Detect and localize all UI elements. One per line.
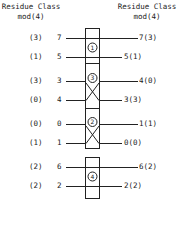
left-residue-label: (0): [29, 120, 43, 128]
right-output-label: 2(2): [124, 182, 142, 190]
left-residue-label: (3): [29, 34, 43, 42]
left-value-label: 3: [57, 77, 62, 85]
stage-2-number: 2: [91, 118, 95, 125]
stage-1-number: 1: [91, 44, 95, 51]
stage-4-switch: [66, 158, 138, 199]
left-residue-label: (0): [29, 96, 43, 104]
stage-3-number: 3: [91, 74, 95, 81]
left-residue-label: (2): [29, 182, 43, 190]
right-output-label: 1(1): [139, 120, 157, 128]
right-output-label: 7(3): [139, 34, 157, 42]
left-residue-label: (2): [29, 163, 43, 171]
left-residue-label: (1): [29, 53, 43, 61]
left-residue-label: (3): [29, 77, 43, 85]
stage-4-number: 4: [91, 173, 95, 180]
left-value-label: 0: [57, 120, 62, 128]
right-output-label: 4(0): [139, 77, 157, 85]
left-value-label: 5: [57, 53, 62, 61]
stage-1-switch: [66, 29, 138, 70]
right-output-label: 3(3): [124, 96, 142, 104]
left-value-label: 7: [57, 34, 62, 42]
left-residue-label: (1): [29, 139, 43, 147]
right-output-label: 0(0): [124, 139, 142, 147]
right-output-label: 6(2): [139, 163, 157, 171]
left-value-label: 2: [57, 182, 62, 190]
left-value-label: 4: [57, 96, 62, 104]
left-value-label: 1: [57, 139, 62, 147]
right-output-label: 5(1): [124, 53, 142, 61]
left-value-label: 6: [57, 163, 62, 171]
